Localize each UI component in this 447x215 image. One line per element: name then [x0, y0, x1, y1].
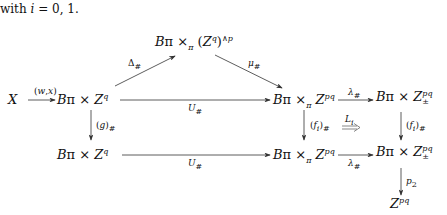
label-U-top: U#: [188, 103, 202, 116]
label-lambda-top: λ#: [348, 87, 360, 100]
label-Li: Li: [345, 114, 354, 127]
node-row1-mid: Bπ ×π Zpq: [273, 92, 335, 110]
node-row1-right: Bπ × Zpq±: [376, 89, 433, 106]
node-bottom: Zpq: [390, 196, 409, 211]
label-U-bottom: U#: [188, 158, 202, 171]
label-fi-right: (fi)#: [406, 120, 426, 133]
label-lambda-bottom: λ#: [348, 158, 360, 171]
label-mu: μ#: [248, 58, 261, 71]
label-wx: (w,x): [34, 86, 57, 96]
node-row1-left: Bπ × Zq: [57, 92, 108, 107]
label-p2: p2: [406, 176, 417, 189]
node-top: Bπ ×π (Zq)∧p: [155, 34, 233, 52]
node-row2-mid: Bπ ×π Zpq: [273, 147, 335, 165]
arrow-delta: [115, 56, 175, 86]
node-X: X: [8, 92, 17, 107]
label-fi-mid: (fi)#: [310, 120, 330, 133]
node-row2-right: Bπ × Zpq±: [376, 144, 433, 161]
diagram-arrows: [0, 0, 447, 215]
label-delta: Δ#: [128, 58, 141, 71]
node-row2-left: Bπ × Zq: [57, 147, 108, 162]
label-g: (g)#: [96, 120, 116, 133]
arrow-Li: [354, 124, 360, 132]
